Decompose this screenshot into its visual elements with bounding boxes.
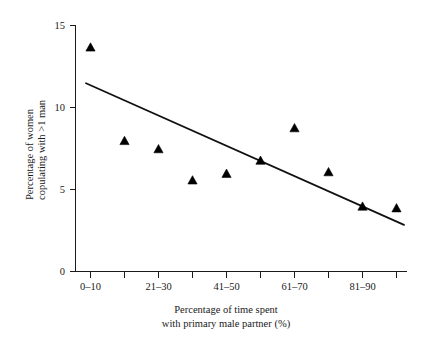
x-tick-label-81-90: 81–90 xyxy=(349,281,375,292)
data-point-marker xyxy=(324,168,333,176)
x-tick-label-0-10: 0–10 xyxy=(80,281,101,292)
x-axis: 0–10 21–30 41–50 61–70 81–90 xyxy=(76,272,408,293)
x-axis-title: Percentage of time spent with primary ma… xyxy=(162,304,291,330)
data-point-marker xyxy=(120,136,129,144)
data-point-marker xyxy=(86,43,95,51)
y-axis-title-line1: Percentage of women xyxy=(24,108,35,200)
data-point-marker xyxy=(188,176,197,184)
data-point-marker xyxy=(392,204,401,212)
x-axis-ticks xyxy=(91,272,397,278)
data-point-marker xyxy=(290,124,299,132)
y-tick-label-5: 5 xyxy=(60,184,65,195)
scatter-plot-figure: 15 10 5 0 Percentage of women copulating… xyxy=(0,0,424,343)
x-tick-label-61-70: 61–70 xyxy=(281,281,307,292)
y-axis: 15 10 5 0 xyxy=(55,20,76,277)
y-axis-title: Percentage of women copulating with >1 m… xyxy=(24,99,47,200)
y-axis-title-line2: copulating with >1 man xyxy=(36,99,47,200)
data-point-marker xyxy=(222,169,231,177)
y-axis-ticks xyxy=(70,26,76,272)
y-tick-label-15: 15 xyxy=(55,20,66,31)
chart-canvas: 15 10 5 0 Percentage of women copulating… xyxy=(0,0,424,343)
data-points xyxy=(86,43,401,212)
x-tick-label-21-30: 21–30 xyxy=(145,281,171,292)
data-point-marker xyxy=(154,145,163,153)
regression-trendline xyxy=(86,83,404,225)
data-point-marker xyxy=(358,202,367,210)
y-tick-label-0: 0 xyxy=(60,266,65,277)
x-axis-title-line1: Percentage of time spent xyxy=(174,304,278,315)
x-axis-title-line2: with primary male partner (%) xyxy=(162,318,291,330)
y-tick-label-10: 10 xyxy=(55,102,66,113)
x-tick-label-41-50: 41–50 xyxy=(213,281,239,292)
